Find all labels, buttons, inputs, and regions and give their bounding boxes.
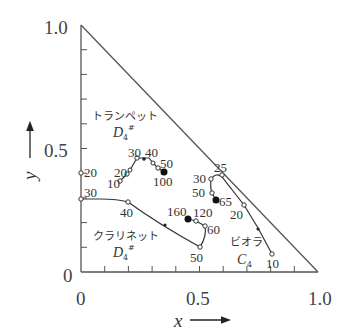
trumpet-note-sub: 4 [123,133,128,142]
trumpet-label-100: 100 [153,174,173,189]
clarinet-note-acc: # [128,243,135,252]
trumpet-name: トランペット [92,110,158,123]
y-axis-ticks [81,50,87,248]
chromaticity-diagram: 1.0 0.5 0 0 0.5 1.0 x y 10 20 30 40 50 1… [0,0,351,332]
clarinet-label-40: 40 [120,205,133,220]
clarinet-label-50: 50 [190,250,203,265]
viola-label-25: 25 [214,160,227,175]
y-tick-1.0: 1.0 [44,17,68,38]
viola-label-10: 10 [266,256,279,271]
trumpet-label-30: 30 [128,145,141,160]
trumpet-point-labels: 10 20 30 40 50 100 [107,145,173,191]
viola-name: ビオラ [230,236,263,249]
x-tick-1.0: 1.0 [308,288,332,309]
y-axis-point-20 [79,171,83,175]
x-tick-0: 0 [76,288,86,309]
trumpet-label-40: 40 [145,145,158,160]
clarinet-label-60: 60 [207,222,220,237]
trumpet-label-50: 50 [160,156,173,171]
y-tick-0: 0 [63,265,73,286]
clarinet-label-30: 30 [84,185,97,200]
clarinet-note: D 4 # [112,243,135,262]
viola-label-30: 30 [193,171,206,186]
y-axis-label: y [19,171,40,182]
viola-note-sub: 4 [247,260,252,269]
clarinet-name: クラリネット [93,230,159,243]
trumpet-label-20: 20 [114,165,127,180]
viola-label-65: 65 [219,194,232,209]
x-tick-0.5: 0.5 [186,288,210,309]
trumpet-note-letter: D [112,125,123,140]
viola-note: C 4 [237,252,252,269]
viola-note-letter: C [237,252,247,267]
clarinet-label-160: 160 [167,204,187,219]
clarinet-note-letter: D [112,245,123,260]
trumpet-note-acc: # [128,123,135,132]
trumpet-note: D 4 # [112,123,135,142]
clarinet-label-120: 120 [193,205,213,220]
y-axis-point-label-20: 20 [84,165,97,180]
viola-label-20: 20 [230,207,243,222]
clarinet-note-sub: 4 [123,253,128,262]
y-tick-0.5: 0.5 [44,140,68,161]
viola-label-50: 50 [192,185,205,200]
x-axis-label: x [173,310,183,331]
